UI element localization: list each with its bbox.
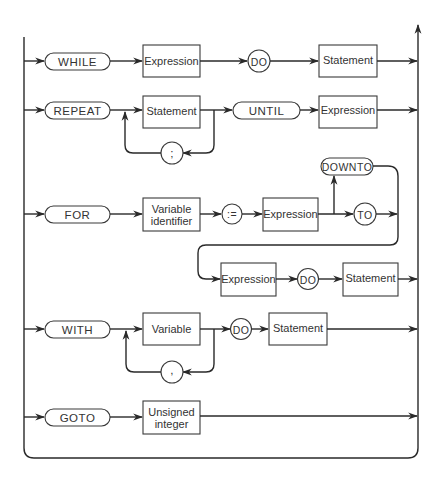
goto-row: GOTO Unsigned integer	[24, 401, 417, 434]
frame-rails	[24, 25, 418, 458]
for-variable-label-line1: Variable	[152, 203, 192, 215]
while-do-label: DO	[251, 56, 268, 68]
with-keyword-label: WITH	[62, 324, 93, 336]
for-keyword-label: FOR	[65, 209, 91, 221]
syntax-diagram: WHILE Expression DO Statement REPEAT Sta…	[0, 0, 444, 486]
for-do-label: DO	[300, 274, 317, 286]
repeat-statement-label: Statement	[146, 105, 196, 117]
with-comma-label: ,	[170, 364, 174, 376]
goto-label-line2: integer	[155, 418, 189, 430]
while-statement-label: Statement	[323, 54, 373, 66]
repeat-semicolon-label: ;	[170, 147, 174, 159]
repeat-row: REPEAT Statement UNTIL Expression ;	[24, 96, 417, 164]
repeat-expression-label: Expression	[321, 104, 375, 116]
for-expression-label: Expression	[263, 208, 317, 220]
with-statement-label: Statement	[273, 322, 323, 334]
goto-label-line1: Unsigned	[148, 406, 194, 418]
repeat-keyword-label: REPEAT	[53, 105, 101, 117]
to-keyword-label: TO	[357, 209, 372, 221]
for-variable-label-line2: identifier	[151, 215, 193, 227]
while-expression-label: Expression	[144, 55, 198, 67]
while-row: WHILE Expression DO Statement	[24, 45, 417, 77]
for-statement-label: Statement	[345, 272, 395, 284]
with-row: WITH Variable DO Statement ,	[24, 313, 417, 383]
for-assign-label: :=	[227, 208, 237, 220]
with-do-label: DO	[233, 324, 250, 336]
downto-keyword-label: DOWNTO	[322, 161, 373, 173]
for-row: FOR Variable identifier := Expression DO…	[24, 158, 417, 296]
goto-keyword-label: GOTO	[60, 412, 96, 424]
with-variable-label: Variable	[152, 323, 192, 335]
while-keyword-label: WHILE	[58, 56, 97, 68]
for-end-expression-label: Expression	[221, 273, 275, 285]
until-keyword-label: UNTIL	[249, 105, 285, 117]
